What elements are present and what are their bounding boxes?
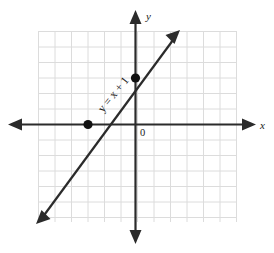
grid — [38, 31, 237, 222]
grid-vertical-lines — [39, 31, 237, 222]
x-axis-arrow-left — [8, 119, 22, 131]
origin-label: 0 — [140, 127, 145, 138]
graph-figure: y = x + 1 y x 0 — [0, 0, 274, 253]
point-x-intercept — [83, 120, 92, 129]
axes — [12, 14, 252, 240]
line-segment — [42, 36, 176, 218]
y-axis-label: y — [145, 10, 151, 22]
plotted-line — [36, 30, 180, 224]
y-axis-arrow-down — [130, 230, 142, 244]
x-axis-label: x — [259, 119, 265, 131]
coordinate-plane-svg: y = x + 1 y x 0 — [0, 0, 274, 253]
point-y-intercept — [131, 73, 140, 82]
y-axis-arrow-up — [130, 10, 142, 24]
x-axis-arrow-right — [242, 119, 256, 131]
axis-arrowheads — [8, 10, 256, 244]
line-arrow-upper-right — [166, 30, 181, 44]
